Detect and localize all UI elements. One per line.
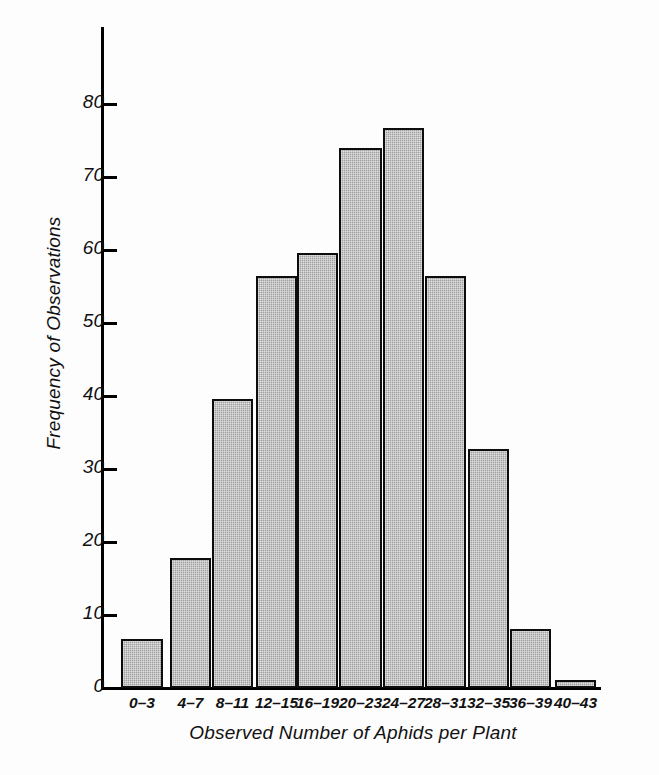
y-tick-label: 40 — [56, 383, 104, 405]
y-tick-mark — [104, 176, 117, 179]
y-tick-label: 50 — [56, 310, 104, 332]
histogram-bar — [170, 558, 211, 688]
histogram-bar — [256, 276, 297, 688]
y-tick-label: 30 — [56, 456, 104, 478]
plot-area: 01020304050607080 0–34–78–1112–1516–1920… — [0, 0, 659, 775]
y-tick-mark — [104, 614, 117, 617]
histogram-bar — [510, 629, 551, 688]
y-axis-line — [101, 27, 104, 690]
y-tick-label: 0 — [56, 675, 104, 697]
histogram-figure: Frequency of Observations 01020304050607… — [0, 0, 659, 775]
x-tick-label: 40–43 — [547, 694, 604, 712]
histogram-bar — [339, 148, 382, 688]
y-tick-mark — [104, 103, 117, 106]
y-tick-label: 70 — [56, 164, 104, 186]
y-tick-mark — [104, 468, 117, 471]
histogram-bar — [425, 276, 466, 688]
y-tick-label: 10 — [56, 602, 104, 624]
histogram-bar — [468, 449, 509, 688]
y-tick-label: 80 — [56, 91, 104, 113]
y-tick-mark — [104, 322, 117, 325]
histogram-bar — [121, 639, 163, 688]
histogram-bar — [383, 128, 424, 688]
y-tick-label: 20 — [56, 529, 104, 551]
y-tick-mark — [104, 541, 117, 544]
histogram-bar — [212, 399, 253, 688]
y-tick-mark — [104, 249, 117, 252]
x-axis-title: Observed Number of Aphids per Plant — [103, 722, 603, 744]
y-tick-mark — [104, 395, 117, 398]
histogram-bar — [297, 253, 338, 688]
y-tick-label: 60 — [56, 237, 104, 259]
histogram-bar — [555, 680, 596, 688]
